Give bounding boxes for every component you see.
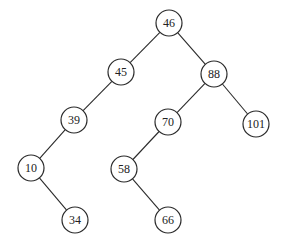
- tree-node-34: 34: [62, 207, 88, 233]
- node-label: 46: [163, 16, 175, 30]
- edge-10-to-34: [39, 178, 66, 210]
- node-label: 34: [69, 213, 81, 227]
- tree-node-58: 58: [111, 156, 137, 182]
- node-label: 45: [115, 65, 127, 79]
- node-label: 58: [118, 162, 130, 176]
- node-label: 10: [25, 161, 37, 175]
- edge-70-to-58: [133, 132, 159, 160]
- edge-45-to-39: [83, 81, 112, 110]
- edge-88-to-101: [222, 84, 247, 114]
- tree-node-88: 88: [201, 61, 227, 87]
- edge-88-to-70: [177, 83, 205, 112]
- node-label: 101: [247, 117, 265, 131]
- tree-node-70: 70: [155, 109, 181, 135]
- node-label: 66: [162, 213, 174, 227]
- tree-node-66: 66: [155, 207, 181, 233]
- edge-39-to-10: [40, 130, 66, 159]
- tree-diagram: 464588397010110583466: [0, 0, 286, 248]
- node-label: 88: [208, 67, 220, 81]
- edge-46-to-88: [178, 33, 206, 65]
- edge-46-to-45: [130, 32, 160, 62]
- tree-node-101: 101: [243, 111, 269, 137]
- tree-node-10: 10: [18, 155, 44, 181]
- node-label: 39: [68, 113, 80, 127]
- tree-node-46: 46: [156, 10, 182, 36]
- tree-node-39: 39: [61, 107, 87, 133]
- node-label: 70: [162, 115, 174, 129]
- nodes-layer: 464588397010110583466: [18, 10, 269, 233]
- edge-58-to-66: [133, 179, 160, 210]
- tree-node-45: 45: [108, 59, 134, 85]
